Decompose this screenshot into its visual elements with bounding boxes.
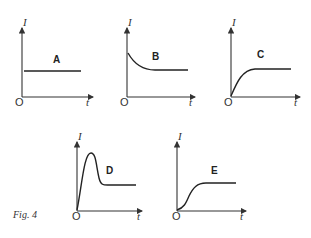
figure-4-diagram: A I t O B I t O C I t O D I t O E [0, 0, 311, 238]
x-axis-label: t [240, 210, 244, 222]
y-axis-label: I [77, 130, 83, 142]
panel-e: E I t O [172, 130, 246, 222]
panel-b: B I t O [120, 16, 195, 108]
x-axis-label: t [294, 96, 298, 108]
y-axis-label: I [127, 16, 133, 28]
origin-label: O [172, 210, 181, 222]
curve-c [231, 69, 291, 96]
origin-label: O [15, 96, 24, 108]
x-axis-label: t [86, 96, 90, 108]
panel-label: E [211, 165, 218, 176]
y-axis-label: I [177, 130, 183, 142]
figure-caption: Fig. 4 [12, 209, 37, 220]
panel-label: D [106, 165, 113, 176]
panel-d: D I t O [72, 130, 142, 222]
panel-label: C [257, 49, 264, 60]
panel-a: A I t O [15, 16, 93, 108]
panel-c: C I t O [224, 16, 300, 108]
curve-d [77, 153, 136, 210]
origin-label: O [72, 210, 81, 222]
x-axis-label: t [189, 96, 193, 108]
y-axis-label: I [22, 16, 28, 28]
x-axis-label: t [137, 210, 141, 222]
origin-label: O [120, 96, 129, 108]
curve-e [177, 183, 236, 210]
panel-label: A [53, 54, 60, 65]
y-axis-label: I [231, 16, 237, 28]
origin-label: O [224, 96, 233, 108]
panel-label: B [152, 51, 159, 62]
